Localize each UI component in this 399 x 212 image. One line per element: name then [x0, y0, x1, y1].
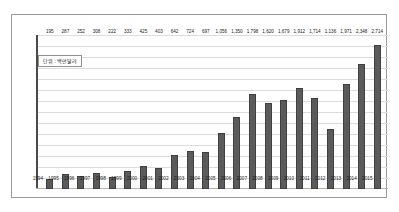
x-tick-label: 2009 — [265, 176, 281, 182]
bar-value-label: 1,714 — [309, 29, 321, 34]
bar: 642 — [171, 155, 178, 189]
x-tick-label: 2006 — [218, 176, 234, 182]
x-tick-label: 2005 — [203, 176, 219, 182]
bar-value-label: 697 — [202, 29, 210, 34]
bar-slot: 2,714 — [369, 35, 385, 189]
x-tick-label: 1997 — [77, 176, 93, 182]
bar: 1,971 — [343, 84, 350, 189]
bar: 1,912 — [296, 88, 303, 190]
x-tick-label: 2003 — [171, 176, 187, 182]
bar-value-label: 642 — [171, 29, 179, 34]
x-tick-label: 1999 — [108, 176, 124, 182]
x-tick-label: 1998 — [93, 176, 109, 182]
bar-value-label: 403 — [155, 29, 163, 34]
x-tick-label: 2011 — [297, 176, 313, 182]
bar-series: 1952872523082223334254036427246971,0561,… — [38, 35, 388, 189]
bar-value-label: 724 — [186, 29, 194, 34]
x-tick-label: 2002 — [156, 176, 172, 182]
x-tick-label: 1996 — [61, 176, 77, 182]
bar-slot: 642 — [167, 35, 183, 189]
bar-value-label: 2,714 — [372, 29, 384, 34]
x-tick-label: 2008 — [250, 176, 266, 182]
bar-slot: 1,136 — [323, 35, 339, 189]
x-tick-label: 2007 — [234, 176, 250, 182]
unit-annotation: 단위 : 백만달러 — [38, 55, 82, 67]
bar-value-label: 222 — [108, 29, 116, 34]
x-tick-label: 2014 — [344, 176, 360, 182]
x-tick-label: 2010 — [281, 176, 297, 182]
bar-slot: 308 — [89, 35, 105, 189]
bar-slot: 1,350 — [229, 35, 245, 189]
x-tick-label: 2012 — [312, 176, 328, 182]
plot-area: 1952872523082223334254036427246971,0561,… — [36, 35, 388, 189]
x-tick-label: 2015 — [359, 176, 375, 182]
bar-value-label: 1,620 — [262, 29, 274, 34]
bar-value-label: 1,798 — [247, 29, 259, 34]
bar-value-label: 308 — [93, 29, 101, 34]
bar-slot: 425 — [136, 35, 152, 189]
bar-slot: 1,714 — [307, 35, 323, 189]
bar-slot: 1,620 — [260, 35, 276, 189]
bar-slot: 333 — [120, 35, 136, 189]
bar-value-label: 2,348 — [356, 29, 368, 34]
bar-value-label: 1,350 — [231, 29, 243, 34]
bar-slot: 697 — [198, 35, 214, 189]
x-tick-label: 1995 — [46, 176, 62, 182]
bar-value-label: 252 — [77, 29, 85, 34]
bar-slot: 403 — [151, 35, 167, 189]
bar-slot: 2,348 — [354, 35, 370, 189]
bar: 724 — [187, 151, 194, 189]
bar-slot: 1,798 — [245, 35, 261, 189]
bar: 1,798 — [249, 94, 256, 190]
bar-value-label: 1,912 — [294, 29, 306, 34]
bar-value-label: 425 — [140, 29, 148, 34]
bar-value-label: 1,056 — [216, 29, 228, 34]
x-tick-label: 2013 — [328, 176, 344, 182]
bar-value-label: 1,136 — [325, 29, 337, 34]
bar-value-label: 1,679 — [278, 29, 290, 34]
bar: 697 — [202, 152, 209, 189]
bar-value-label: 1,971 — [340, 29, 352, 34]
bar-slot: 222 — [104, 35, 120, 189]
bar: 2,714 — [374, 45, 381, 189]
bar-slot: 1,679 — [276, 35, 292, 189]
bar-slot: 1,971 — [338, 35, 354, 189]
x-tick-label: 1994 — [30, 176, 46, 182]
x-tick-label: 2004 — [187, 176, 203, 182]
bar-value-label: 195 — [46, 29, 54, 34]
chart-figure: 1952872523082223334254036427246971,0561,… — [0, 0, 399, 212]
chart-frame: 1952872523082223334254036427246971,0561,… — [11, 14, 387, 198]
x-tick-label: 2001 — [140, 176, 156, 182]
bar-slot: 1,912 — [292, 35, 308, 189]
bar-value-label: 333 — [124, 29, 132, 34]
bar-slot: 724 — [182, 35, 198, 189]
bar-value-label: 287 — [62, 29, 70, 34]
bar-slot: 1,056 — [214, 35, 230, 189]
x-tick-label: 2000 — [124, 176, 140, 182]
x-axis-tick-labels: 1994199519961997199819992000200120022003… — [26, 176, 378, 182]
bar: 2,348 — [358, 64, 365, 189]
